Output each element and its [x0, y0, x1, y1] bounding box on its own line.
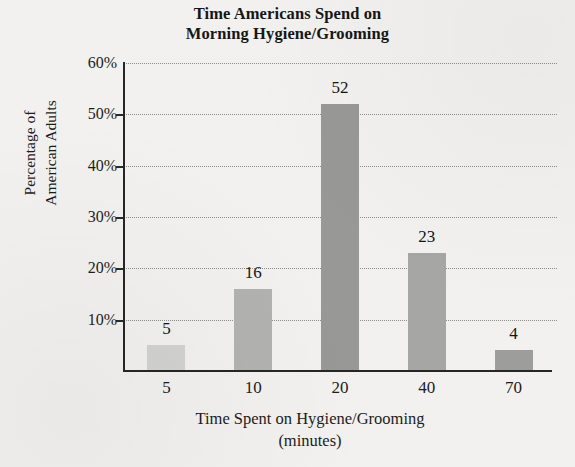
y-axis-tick-labels: 60%50%40%30%20%10%: [55, 63, 117, 371]
y-axis-title-line-1: Percentage of: [19, 43, 40, 263]
bar: [495, 350, 533, 371]
x-axis-tick-labels: 510204070: [123, 378, 557, 400]
y-axis-tick-label: 30%: [57, 209, 117, 225]
x-axis-line: [123, 370, 552, 372]
bar: [408, 253, 446, 371]
plot-area: 51652234: [123, 63, 557, 371]
bar: [147, 345, 185, 371]
chart-title: Time Americans Spend on Morning Hygiene/…: [0, 4, 575, 44]
y-axis-tick-label: 40%: [57, 158, 117, 174]
bar: [321, 104, 359, 371]
bar-value-label: 16: [223, 264, 283, 281]
y-axis-line: [123, 62, 125, 372]
x-axis-title-line-2: (minutes): [60, 430, 560, 452]
y-axis-tick-label: 20%: [57, 260, 117, 276]
x-axis-tick-label: 20: [310, 378, 370, 398]
chart-title-line-2: Morning Hygiene/Grooming: [0, 24, 575, 44]
x-axis-title-line-1: Time Spent on Hygiene/Grooming: [60, 408, 560, 430]
bar: [234, 289, 272, 371]
x-axis-tick-label: 5: [136, 378, 196, 398]
bar-value-label: 52: [310, 79, 370, 96]
y-axis-tick-label: 50%: [57, 106, 117, 122]
bar-value-label: 23: [397, 228, 457, 245]
x-axis-tick-label: 40: [397, 378, 457, 398]
x-axis-title: Time Spent on Hygiene/Grooming (minutes): [60, 408, 560, 452]
y-axis-tick-label: 60%: [57, 55, 117, 71]
bar-value-label: 5: [136, 320, 196, 337]
chart-title-line-1: Time Americans Spend on: [0, 4, 575, 24]
y-axis-tick-label: 10%: [57, 312, 117, 328]
x-axis-tick-label: 70: [484, 378, 544, 398]
bar-chart-figure: Time Americans Spend on Morning Hygiene/…: [0, 0, 575, 467]
gridline-60: [123, 63, 557, 64]
bar-value-label: 4: [484, 325, 544, 342]
x-axis-tick-label: 10: [223, 378, 283, 398]
